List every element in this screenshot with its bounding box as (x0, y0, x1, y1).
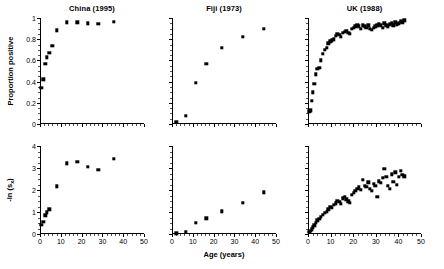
x-minor-tick (226, 234, 227, 236)
x-minor-tick (65, 234, 66, 236)
x-minor-tick (180, 124, 181, 126)
data-point (403, 175, 406, 178)
x-minor-tick (403, 234, 404, 236)
x-minor-tick (94, 234, 95, 236)
x-tick (40, 234, 41, 237)
x-minor-tick (362, 234, 363, 236)
y-minor-tick (170, 174, 172, 175)
data-point (76, 160, 79, 163)
data-point (42, 78, 45, 81)
y-minor-tick (38, 201, 40, 202)
x-tick (82, 234, 83, 237)
x-minor-tick (111, 234, 112, 236)
x-minor-tick (394, 234, 395, 236)
data-point (112, 20, 115, 23)
data-point (384, 175, 387, 178)
y-minor-tick (170, 207, 172, 208)
y-minor-tick (306, 87, 308, 88)
data-point (65, 161, 68, 164)
x-minor-tick (362, 124, 363, 126)
data-point (194, 221, 197, 224)
x-tick (123, 234, 124, 237)
x-minor-tick (90, 124, 91, 126)
y-minor-tick (38, 98, 40, 99)
x-minor-tick (111, 124, 112, 126)
x-tick (172, 234, 173, 237)
x-minor-tick (313, 234, 314, 236)
x-minor-tick (335, 234, 336, 236)
x-tick (398, 124, 399, 127)
data-point (174, 232, 177, 235)
y-minor-tick (306, 98, 308, 99)
y-tick (305, 190, 308, 191)
x-minor-tick (407, 234, 408, 236)
x-axis-line (40, 123, 144, 124)
data-point (220, 210, 223, 213)
x-minor-tick (226, 124, 227, 126)
x-minor-tick (218, 124, 219, 126)
y-minor-tick (170, 179, 172, 180)
y-minor-tick (170, 185, 172, 186)
data-point (55, 185, 58, 188)
x-minor-tick (264, 234, 265, 236)
y-tick-label: 0 (14, 231, 36, 238)
data-point (310, 99, 313, 102)
y-tick-label: 0.8 (14, 36, 36, 43)
data-point (174, 120, 177, 123)
data-point (314, 72, 317, 75)
x-tick (40, 124, 41, 127)
data-point (348, 201, 351, 204)
y-tick (305, 60, 308, 61)
x-minor-tick (317, 124, 318, 126)
y-tick (37, 146, 40, 147)
x-minor-tick (218, 234, 219, 236)
x-tick (61, 124, 62, 127)
x-tick-label: 10 (57, 238, 65, 245)
x-tick (172, 124, 173, 127)
data-point (403, 18, 406, 21)
data-point (97, 22, 100, 25)
y-minor-tick (170, 45, 172, 46)
x-tick (331, 124, 332, 127)
x-tick-label: 20 (210, 238, 218, 245)
y-axis-line (40, 18, 41, 124)
x-minor-tick (367, 234, 368, 236)
y-minor-tick (306, 157, 308, 158)
y-minor-tick (170, 119, 172, 120)
x-minor-tick (268, 234, 269, 236)
y-tick-label: 1 (14, 15, 36, 22)
y-minor-tick (38, 152, 40, 153)
y-minor-tick (38, 71, 40, 72)
x-minor-tick (272, 124, 273, 126)
x-minor-tick (140, 124, 141, 126)
x-tick-label: 0 (38, 238, 42, 245)
x-minor-tick (251, 124, 252, 126)
y-minor-tick (38, 23, 40, 24)
x-tick-label: 0 (306, 238, 310, 245)
x-tick-label: 20 (349, 238, 357, 245)
data-point (374, 184, 377, 187)
x-tick (398, 234, 399, 237)
x-tick (234, 234, 235, 237)
y-minor-tick (38, 196, 40, 197)
x-tick-label: 0 (170, 238, 174, 245)
x-minor-tick (205, 234, 206, 236)
data-point (383, 167, 386, 170)
data-point (112, 157, 115, 160)
plot-area-bottom-china (40, 146, 144, 234)
y-minor-tick (306, 223, 308, 224)
x-tick-label: 30 (98, 238, 106, 245)
x-minor-tick (335, 124, 336, 126)
x-minor-tick (222, 234, 223, 236)
x-tick (144, 234, 145, 237)
y-minor-tick (170, 66, 172, 67)
x-minor-tick (209, 234, 210, 236)
y-tick-label: 2 (14, 187, 36, 194)
y-minor-tick (306, 66, 308, 67)
x-tick-label: 20 (78, 238, 86, 245)
x-minor-tick (136, 234, 137, 236)
y-tick-label: 1 (14, 209, 36, 216)
data-point (55, 28, 58, 31)
x-tick (193, 234, 194, 237)
x-minor-tick (380, 234, 381, 236)
